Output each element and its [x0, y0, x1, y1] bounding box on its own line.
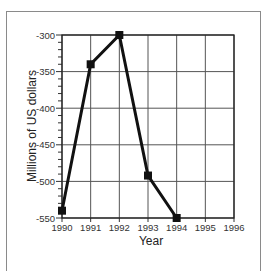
x-tick-label: 1990 — [51, 222, 72, 233]
x-tick-label: 1994 — [166, 222, 187, 233]
x-tick-label: 1995 — [195, 222, 216, 233]
x-tick-labels: 1990199119921993199419951996 — [51, 222, 244, 233]
data-point-marker — [144, 172, 152, 180]
data-point-marker — [115, 31, 123, 39]
x-tick-label: 1992 — [109, 222, 130, 233]
y-minor-ticks — [56, 35, 234, 222]
data-point-marker — [173, 214, 181, 222]
x-tick-label: 1991 — [80, 222, 101, 233]
y-tick-label: -300 — [36, 30, 55, 41]
x-tick-label: 1996 — [223, 222, 244, 233]
x-axis-title: Year — [139, 234, 163, 248]
data-point-marker — [87, 60, 95, 68]
x-tick-label: 1993 — [137, 222, 158, 233]
y-axis-title: Millions of US dollars — [25, 70, 39, 182]
data-point-marker — [58, 207, 66, 215]
